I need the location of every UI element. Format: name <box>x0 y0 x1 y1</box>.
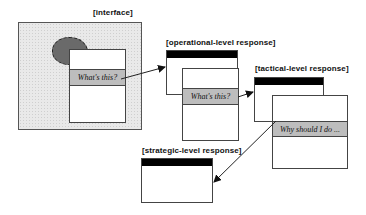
arrow-operational-to-tactical <box>238 92 253 97</box>
strategic-label: [strategic-level response] <box>142 146 242 155</box>
interface-label: [interface] <box>93 8 133 17</box>
interface-help-popup: What's this? <box>69 49 126 123</box>
tactical-title-bar <box>255 78 323 85</box>
operational-label: [operational-level response] <box>166 38 276 47</box>
tactical-label: [tactical-level response] <box>255 64 349 73</box>
operational-question-text: What's this? <box>191 92 230 101</box>
operational-title-bar <box>167 51 237 58</box>
strategic-window <box>141 158 213 203</box>
tactical-question-band[interactable]: Why should I do ... <box>273 121 347 137</box>
strategic-title-bar <box>142 159 212 166</box>
operational-help-popup: What's this? <box>182 68 239 141</box>
interface-question-text: What's this? <box>78 73 117 82</box>
tactical-help-popup: Why should I do ... <box>272 95 348 169</box>
interface-question-band[interactable]: What's this? <box>70 69 125 86</box>
operational-question-band[interactable]: What's this? <box>183 88 238 105</box>
tactical-question-text: Why should I do ... <box>280 125 340 134</box>
